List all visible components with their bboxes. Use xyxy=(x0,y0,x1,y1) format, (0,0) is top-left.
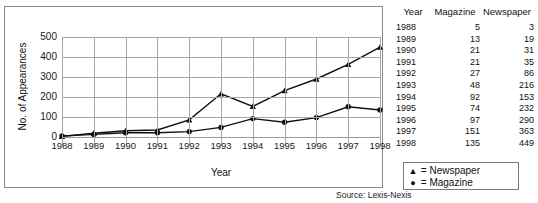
data-table: Year Magazine Newspaper 1988531989131919… xyxy=(396,6,536,150)
cell-magazine: 97 xyxy=(430,115,480,127)
gridline-vertical xyxy=(126,37,127,137)
legend-label-newspaper: Newspaper xyxy=(429,165,480,176)
x-axis-title: Year xyxy=(62,167,380,178)
column-header-magazine: Magazine xyxy=(430,6,480,22)
cell-magazine: 151 xyxy=(430,126,480,138)
gridline-vertical xyxy=(348,37,349,137)
x-axis-line xyxy=(62,137,380,138)
table-row: 198853 xyxy=(396,22,534,34)
legend-item-magazine: ● = Magazine xyxy=(408,177,518,189)
cell-newspaper: 449 xyxy=(480,138,534,150)
y-tick-label: 500 xyxy=(11,32,57,42)
cell-magazine: 48 xyxy=(430,80,480,92)
legend-label-magazine: Magazine xyxy=(429,177,472,188)
cell-magazine: 21 xyxy=(430,45,480,57)
cell-newspaper: 19 xyxy=(480,34,534,46)
cell-year: 1993 xyxy=(396,80,430,92)
cell-newspaper: 86 xyxy=(480,68,534,80)
y-tick-labels: 5004003002001000 xyxy=(5,7,57,189)
gridline-vertical xyxy=(62,37,63,137)
cell-year: 1997 xyxy=(396,126,430,138)
gridline-vertical xyxy=(157,37,158,137)
table-row: 199697290 xyxy=(396,115,534,127)
cell-magazine: 21 xyxy=(430,57,480,69)
source-note: Source: Lexis-Nexis xyxy=(336,190,412,200)
table-row: 199492153 xyxy=(396,92,534,104)
table-row: 199348216 xyxy=(396,80,534,92)
column-header-year: Year xyxy=(396,6,430,22)
cell-newspaper: 153 xyxy=(480,92,534,104)
y-tick-label: 200 xyxy=(11,92,57,102)
cell-magazine: 5 xyxy=(430,22,480,34)
table-row: 19902131 xyxy=(396,45,534,57)
cell-year: 1989 xyxy=(396,34,430,46)
gridline-vertical xyxy=(285,37,286,137)
gridline-vertical xyxy=(253,37,254,137)
cell-newspaper: 35 xyxy=(480,57,534,69)
cell-year: 1990 xyxy=(396,45,430,57)
cell-year: 1991 xyxy=(396,57,430,69)
gridline-vertical xyxy=(380,37,381,137)
cell-year: 1996 xyxy=(396,115,430,127)
cell-year: 1992 xyxy=(396,68,430,80)
cell-magazine: 92 xyxy=(430,92,480,104)
cell-newspaper: 232 xyxy=(480,103,534,115)
table-row: 19922786 xyxy=(396,68,534,80)
cell-magazine: 27 xyxy=(430,68,480,80)
cell-newspaper: 363 xyxy=(480,126,534,138)
table-row: 1998135449 xyxy=(396,138,534,150)
table-element: Year Magazine Newspaper 1988531989131919… xyxy=(396,6,534,150)
table-row: 1997151363 xyxy=(396,126,534,138)
gridline-vertical xyxy=(316,37,317,137)
legend-item-newspaper: ▲ = Newspaper xyxy=(408,165,518,177)
circle-marker-icon: ● xyxy=(408,177,418,189)
table-row: 199574232 xyxy=(396,103,534,115)
legend-equals: = xyxy=(421,165,427,176)
table-row: 19912135 xyxy=(396,57,534,69)
plot-area xyxy=(62,37,380,137)
cell-year: 1995 xyxy=(396,103,430,115)
triangle-marker-icon: ▲ xyxy=(408,165,418,177)
legend-equals: = xyxy=(421,177,427,188)
cell-magazine: 13 xyxy=(430,34,480,46)
table-body: 1988531989131919902131199121351992278619… xyxy=(396,22,534,150)
y-tick-label: 400 xyxy=(11,52,57,62)
x-tick-label: 1998 xyxy=(360,141,400,151)
y-tick-label: 300 xyxy=(11,72,57,82)
gridline-vertical xyxy=(221,37,222,137)
legend: ▲ = Newspaper ● = Magazine xyxy=(403,162,519,190)
cell-newspaper: 290 xyxy=(480,115,534,127)
table-header-row: Year Magazine Newspaper xyxy=(396,6,534,22)
table-row: 19891319 xyxy=(396,34,534,46)
cell-year: 1988 xyxy=(396,22,430,34)
figure: No. of Appearances 5004003002001000 1988… xyxy=(0,0,538,203)
cell-year: 1994 xyxy=(396,92,430,104)
cell-year: 1998 xyxy=(396,138,430,150)
cell-magazine: 135 xyxy=(430,138,480,150)
chart-frame: No. of Appearances 5004003002001000 1988… xyxy=(4,6,383,188)
gridline-vertical xyxy=(94,37,95,137)
cell-newspaper: 3 xyxy=(480,22,534,34)
gridline-vertical xyxy=(189,37,190,137)
cell-newspaper: 216 xyxy=(480,80,534,92)
cell-magazine: 74 xyxy=(430,103,480,115)
cell-newspaper: 31 xyxy=(480,45,534,57)
y-tick-label: 100 xyxy=(11,112,57,122)
column-header-newspaper: Newspaper xyxy=(480,6,534,22)
